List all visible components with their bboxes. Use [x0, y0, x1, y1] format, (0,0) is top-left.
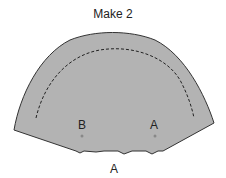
- pattern-piece-outline: [14, 33, 214, 155]
- marker-b-label: B: [78, 118, 86, 132]
- edge-a-label: A: [110, 162, 118, 176]
- pattern-piece: [0, 0, 226, 178]
- marker-b-dot: [81, 135, 84, 138]
- marker-a-dot: [154, 135, 157, 138]
- marker-a-label: A: [150, 118, 158, 132]
